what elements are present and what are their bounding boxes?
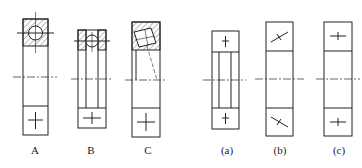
bearing-drawing — [0, 0, 362, 168]
label-b-paren: (b) — [274, 144, 287, 156]
label-c-paren: (c) — [333, 144, 345, 156]
label-a-paren: (a) — [221, 144, 233, 156]
figure-b-symbol — [255, 22, 304, 136]
figure-a-symbol — [203, 31, 246, 129]
figure-c — [125, 22, 167, 137]
label-c: C — [144, 144, 151, 156]
figure-b — [71, 30, 113, 128]
label-a: A — [31, 144, 39, 156]
figure-c-symbol — [316, 22, 360, 136]
figure-a — [13, 12, 57, 135]
label-b: B — [87, 144, 94, 156]
